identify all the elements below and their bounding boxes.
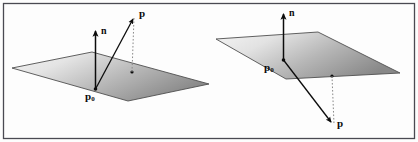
label-point-left: p <box>139 8 145 19</box>
label-normal-right: n <box>289 8 295 18</box>
label-normal-left: n <box>101 26 107 36</box>
label-base-point-right: p0 <box>264 62 274 73</box>
label-point-right: p <box>337 118 343 129</box>
diagram-svg <box>0 0 418 142</box>
label-base-point-left: p0 <box>85 91 95 102</box>
base-point-dot-right <box>282 58 286 62</box>
label-base-point-left-sub: 0 <box>91 95 95 103</box>
figure-canvas: n p0 p n p0 p <box>0 0 418 142</box>
label-base-point-right-sub: 0 <box>270 66 274 74</box>
